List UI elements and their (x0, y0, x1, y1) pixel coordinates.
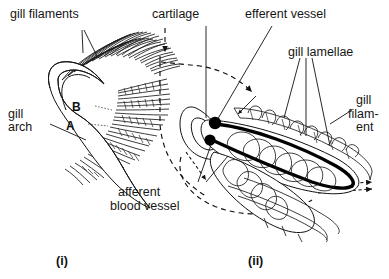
label-afferent-line1: afferent (118, 185, 161, 199)
label-point-b: B (72, 100, 81, 114)
diagram-canvas: gill filaments gill arch B A (i) (0, 0, 389, 279)
label-gill-filament-line2: filam- (348, 107, 379, 121)
efferent-vessel-dot (209, 117, 221, 129)
gill-filaments-leader-lines (82, 30, 98, 58)
gill-diagram-figure: gill filaments gill arch B A (i) (0, 0, 389, 279)
label-efferent-vessel: efferent vessel (245, 7, 326, 21)
caption-panel-i: (i) (56, 254, 68, 268)
label-gill-arch-line2: arch (8, 120, 32, 134)
label-gill-filament-line3: ent (356, 120, 374, 134)
label-gill-arch-line1: gill (8, 107, 23, 121)
ab-pointer-ticks (88, 106, 112, 126)
label-cartilage: cartilage (152, 7, 199, 21)
gill-filaments-upper-row (62, 32, 180, 80)
lamellae-pointer-arrow (238, 96, 256, 114)
afferent-vessel-dot (204, 134, 215, 145)
label-gill-filaments: gill filaments (10, 7, 79, 21)
caption-panel-ii: (ii) (248, 254, 263, 268)
label-afferent-line2: blood vessel (110, 199, 180, 213)
label-gill-filament-line1: gill (356, 93, 371, 107)
label-gill-lamellae: gill lamellae (288, 45, 353, 59)
label-point-a: A (66, 119, 75, 133)
